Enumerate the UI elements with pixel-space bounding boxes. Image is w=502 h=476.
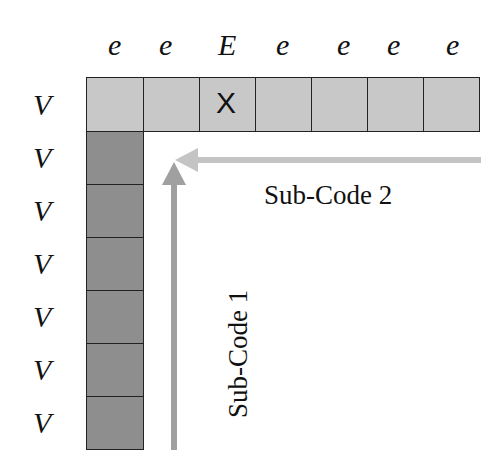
sub-code-1-arrow-icon — [162, 162, 186, 450]
sub-code-2-label: Sub-Code 2 — [264, 182, 392, 209]
sub-code-1-label: Sub-Code 1 — [225, 290, 252, 418]
sub-code-2-arrow-icon — [175, 148, 481, 172]
